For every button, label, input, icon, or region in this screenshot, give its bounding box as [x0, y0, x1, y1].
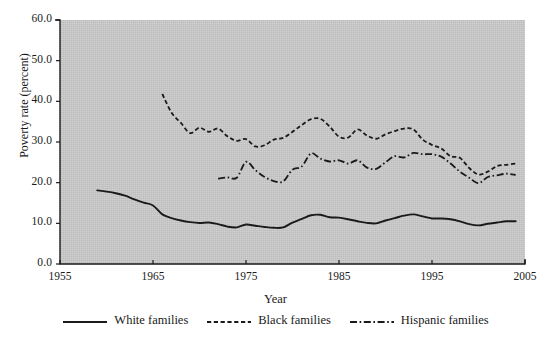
- x-axis-tick-label: 1955: [30, 270, 90, 282]
- legend-item[interactable]: Hispanic families: [349, 313, 489, 328]
- x-axis-tick-label: 2005: [495, 270, 551, 282]
- x-axis-tick-label: 1995: [402, 270, 462, 282]
- x-axis-title: Year: [0, 292, 551, 307]
- series-line: [162, 94, 515, 175]
- chart-legend: White familiesBlack familiesHispanic fam…: [0, 313, 551, 328]
- y-axis-tick-label: 0.0: [6, 256, 52, 268]
- data-series-group: [97, 94, 516, 228]
- x-axis-tick-label: 1985: [309, 270, 369, 282]
- axes-group: [55, 20, 525, 264]
- axis-spines: [55, 20, 525, 264]
- legend-item[interactable]: White families: [62, 313, 188, 328]
- x-axis-tick-label: 1965: [123, 270, 183, 282]
- legend-item[interactable]: Black families: [206, 313, 331, 328]
- legend-line-swatch: [349, 316, 395, 326]
- legend-item-label: Black families: [258, 313, 331, 328]
- poverty-rate-line-chart: 0.010.020.030.040.050.060.0 195519651975…: [0, 0, 551, 337]
- y-axis-tick-label: 10.0: [6, 215, 52, 227]
- chart-svg-layer: [0, 0, 551, 337]
- series-line: [218, 153, 516, 183]
- y-axis-tick-label: 60.0: [6, 12, 52, 24]
- legend-line-swatch: [206, 316, 252, 326]
- x-axis-tick-label: 1975: [216, 270, 276, 282]
- y-axis-title: Poverty rate (percent): [17, 26, 32, 186]
- legend-item-label: White families: [114, 313, 188, 328]
- legend-line-swatch: [62, 316, 108, 326]
- legend-item-label: Hispanic families: [401, 313, 489, 328]
- series-line: [97, 190, 516, 228]
